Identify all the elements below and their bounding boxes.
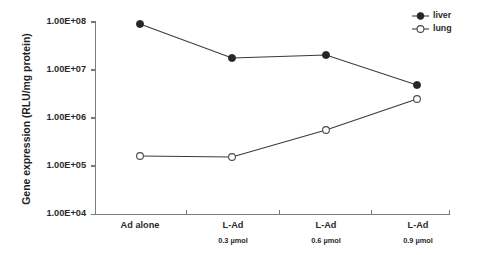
x-tick-label: L-Ad [408, 220, 429, 230]
chart-legend: liver lung [412, 10, 452, 33]
y-tick-label: 1.00E+08 [46, 16, 86, 26]
data-point-liver [413, 81, 420, 88]
y-tick-label: 1.00E+04 [46, 208, 86, 218]
data-point-liver [228, 54, 235, 61]
x-tick-sublabel: 0.6 µmol [311, 236, 341, 245]
legend-marker-liver-icon [417, 13, 424, 20]
y-axis-title: Gene expression (RLU/mg protein) [21, 33, 32, 204]
chart-figure: Gene expression (RLU/mg protein) 1.00E+0… [0, 0, 485, 255]
legend-marker-lung-icon [417, 26, 424, 33]
x-tick-label: L-Ad [223, 220, 244, 230]
data-point-lung [414, 96, 421, 103]
series-line-liver [140, 24, 417, 85]
line-chart: Gene expression (RLU/mg protein) 1.00E+0… [0, 0, 485, 255]
y-tick-label: 1.00E+07 [46, 64, 86, 74]
y-tick-label: 1.00E+06 [46, 112, 86, 122]
data-point-liver [136, 20, 143, 27]
x-tick-label: L-Ad [316, 220, 337, 230]
data-point-lung [323, 127, 330, 134]
x-tick-sublabel: 0.9 µmol [403, 236, 433, 245]
data-point-liver [322, 51, 329, 58]
x-tick-sublabel: 0.3 µmol [218, 236, 248, 245]
y-tick-label: 1.00E+05 [46, 160, 86, 170]
series-line-lung [140, 99, 417, 157]
legend-label-liver: liver [433, 10, 452, 20]
data-point-lung [229, 154, 236, 161]
legend-label-lung: lung [433, 23, 452, 33]
x-tick-label: Ad alone [121, 220, 160, 230]
data-point-lung [137, 153, 144, 160]
